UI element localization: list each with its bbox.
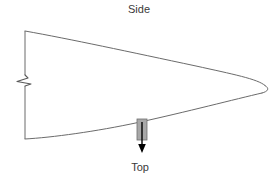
break-symbol-zigzag-icon <box>17 75 31 86</box>
direction-arrow-head-icon <box>138 144 146 153</box>
figure-title: Side <box>128 3 150 15</box>
nose-tip-outline <box>262 86 268 94</box>
callout-label-top: Top <box>131 161 149 173</box>
upper-surface-outline <box>25 31 265 86</box>
diagram-canvas: Side Top <box>0 0 277 182</box>
figure-container: Side Top <box>0 0 277 182</box>
